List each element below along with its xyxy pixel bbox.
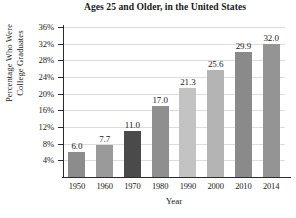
y-axis-tick-label: 28%: [18, 56, 54, 65]
bar-value-label: 7.7: [89, 134, 121, 144]
y-axis-tick-label: 16%: [18, 106, 54, 115]
bar: [152, 106, 169, 177]
bar: [96, 145, 113, 177]
bar: [124, 131, 141, 177]
y-axis-tick-label: 24%: [18, 73, 54, 82]
y-axis-tick-label: 36%: [18, 23, 54, 32]
y-axis-label-line-2: College Graduates: [15, 0, 26, 139]
chart-figure: Ages 25 and Older, in the United States …: [0, 0, 296, 218]
x-axis-label: Year: [63, 196, 285, 207]
y-axis-tick-label: 8%: [18, 140, 54, 149]
bar-value-label: 25.6: [200, 59, 232, 69]
bar-value-label: 29.9: [227, 41, 259, 51]
y-axis-tick-label: 20%: [18, 90, 54, 99]
chart-title: Ages 25 and Older, in the United States: [40, 1, 290, 13]
bar: [263, 44, 280, 177]
bar-value-label: 21.3: [172, 77, 204, 87]
bar-value-label: 17.0: [144, 95, 176, 105]
bar: [235, 52, 252, 177]
bar: [68, 152, 85, 177]
y-axis-label-line-1: Percentage Who Were: [4, 0, 15, 139]
x-axis-line: [62, 177, 291, 178]
bar: [207, 70, 224, 177]
bar-value-label: 32.0: [255, 33, 287, 43]
y-axis-tick-label: 4%: [18, 156, 54, 165]
y-axis-tick-label: 32%: [18, 40, 54, 49]
y-axis-tick-label: 12%: [18, 123, 54, 132]
bar: [179, 88, 196, 177]
y-axis-label: Percentage Who Were College Graduates: [4, 0, 32, 139]
x-axis-tick-label: 2014: [255, 181, 287, 191]
bar-value-label: 11.0: [116, 120, 148, 130]
